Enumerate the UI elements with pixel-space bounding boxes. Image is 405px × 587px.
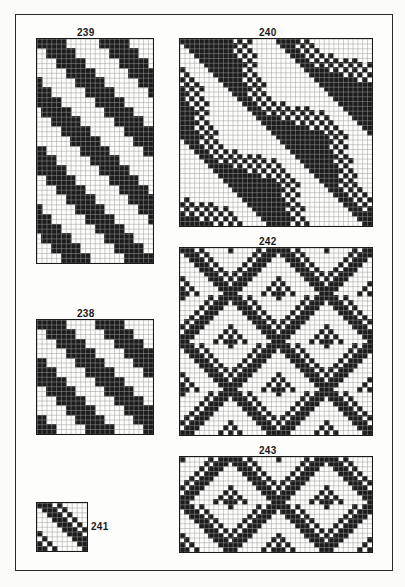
weave-grid [36,319,154,435]
figure-label-239: 239 [77,27,95,38]
weave-diagram-238 [36,319,154,435]
weave-diagram-242 [179,247,373,436]
weave-grid [36,502,88,552]
figure-label-240: 240 [259,27,277,38]
weave-grid [36,38,154,264]
weave-grid [179,38,373,227]
figure-label-241: 241 [91,521,109,532]
figure-label-243: 243 [259,445,277,456]
weave-grid [179,456,373,553]
weave-grid [179,247,373,436]
figure-label-238: 238 [77,308,95,319]
weave-diagram-240 [179,38,373,227]
weave-diagram-243 [179,456,373,553]
weave-diagram-239 [36,38,154,264]
figure-label-242: 242 [259,236,277,247]
weave-diagram-241 [36,502,88,552]
